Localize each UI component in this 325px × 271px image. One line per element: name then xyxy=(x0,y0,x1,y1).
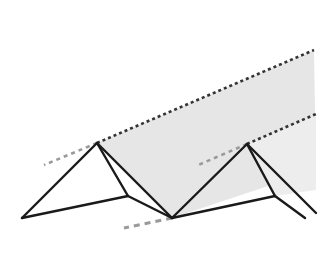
figure-root: Pleated zigzag surface diagram xyxy=(0,0,325,271)
folded-surface-diagram xyxy=(0,0,325,271)
